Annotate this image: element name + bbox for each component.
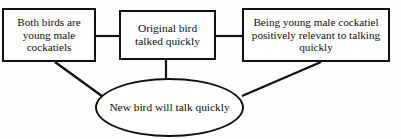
node-relevance-label: Being young male cockatiel positively re… bbox=[244, 16, 388, 54]
node-being-young-male-cockatiel-positively-relevant: Being young male cockatiel positively re… bbox=[242, 8, 390, 62]
node-both-birds-are-young-male-cockatiels: Both birds are young male cockatiels bbox=[2, 8, 96, 62]
node-original-bird-label: Original bird talked quickly bbox=[121, 22, 214, 48]
argument-diagram: Both birds are young male cockatiels Ori… bbox=[0, 0, 401, 139]
connector-both-birds-to-conclusion bbox=[55, 62, 106, 99]
node-conclusion-label: New bird will talk quickly bbox=[107, 101, 231, 114]
node-both-birds-label: Both birds are young male cockatiels bbox=[4, 16, 94, 54]
node-original-bird-talked-quickly: Original bird talked quickly bbox=[119, 10, 216, 60]
connector-relevance-to-conclusion bbox=[242, 62, 321, 96]
node-new-bird-will-talk-quickly: New bird will talk quickly bbox=[95, 78, 244, 137]
